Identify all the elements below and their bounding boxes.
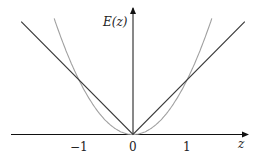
y-axis-label: E(z): [102, 15, 128, 29]
tick-label-0: 0: [129, 140, 137, 154]
tick-label-neg1: −1: [70, 140, 88, 154]
loss-function-chart: E(z) z −1 0 1: [0, 0, 258, 154]
tick-label-1: 1: [183, 140, 191, 154]
x-axis-label: z: [237, 137, 245, 151]
